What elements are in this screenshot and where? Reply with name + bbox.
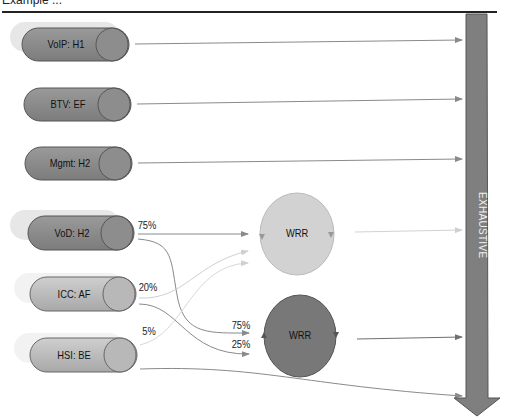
split-wrr2-75: 75% <box>232 319 251 331</box>
exhaustive-label: EXHAUSTIVE <box>466 170 488 280</box>
queue-label-icc: ICC: AF <box>40 288 108 300</box>
wrr-dark-label: WRR <box>289 329 311 341</box>
queue-label-btv: BTV: EF <box>34 98 102 110</box>
queue-label-hsi: HSI: BE <box>40 349 108 361</box>
split-icc-20: 20% <box>139 281 158 293</box>
split-hsi-5: 5% <box>142 325 156 337</box>
queue-label-mgmt: Mgmt: H2 <box>36 157 104 169</box>
split-vod-75: 75% <box>138 219 157 231</box>
split-wrr2-25: 25% <box>232 338 251 350</box>
wrr-light-label: WRR <box>286 227 308 239</box>
queue-label-vod: VoD: H2 <box>38 227 106 239</box>
pill-shadows <box>10 22 124 363</box>
queue-label-voip: VoIP: H1 <box>32 38 100 50</box>
